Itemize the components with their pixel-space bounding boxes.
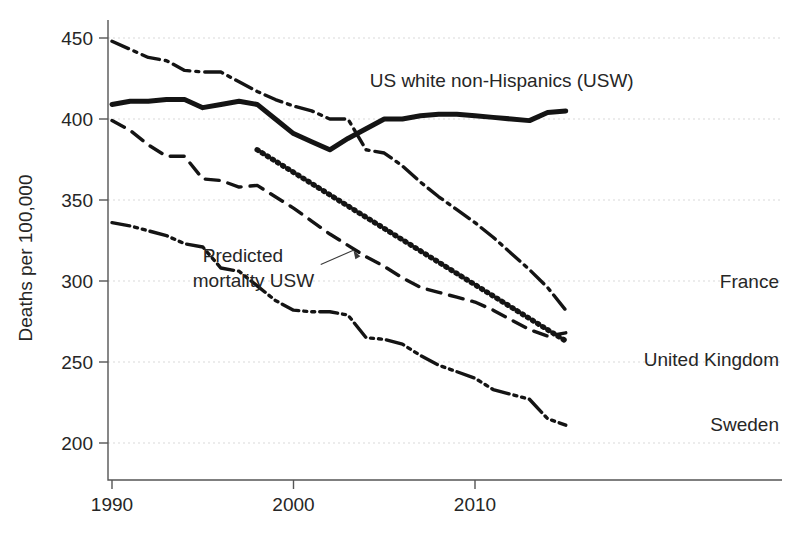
x-tick-label-2000: 2000 [272,494,314,515]
y-tick-label-300: 300 [61,271,93,292]
predicted-mortality-label-line1: Predicted [203,245,283,266]
y-tick-label-400: 400 [61,109,93,130]
chart-container: 200250300350400450 199020002010 Deaths p… [0,0,792,536]
mortality-line-chart: 200250300350400450 199020002010 Deaths p… [0,0,792,536]
y-tick-label-450: 450 [61,28,93,49]
series-label-usw: US white non-Hispanics (USW) [370,70,634,91]
y-tick-label-250: 250 [61,352,93,373]
predicted-mortality-label-line2: mortality USW [193,270,314,291]
series-label-sweden: Sweden [710,414,779,435]
series-label-uk: United Kingdom [644,349,779,370]
y-tick-label-350: 350 [61,190,93,211]
y-tick-label-200: 200 [61,433,93,454]
series-label-france: France [720,271,779,292]
x-tick-label-2010: 2010 [454,494,496,515]
x-tick-label-1990: 1990 [91,494,133,515]
y-axis-title: Deaths per 100,000 [15,175,36,342]
